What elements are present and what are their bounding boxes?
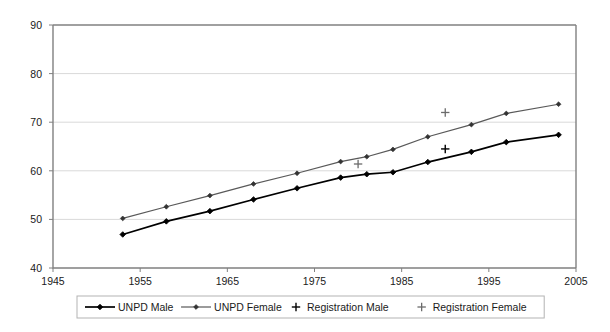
data-point <box>208 193 213 198</box>
series-unpd-female <box>120 102 561 221</box>
chart-canvas: 405060708090 194519551965197519851995200… <box>0 0 610 332</box>
y-tick-label: 60 <box>30 165 42 177</box>
series-registration-male <box>441 145 449 153</box>
data-point <box>251 197 257 203</box>
data-point <box>251 182 256 187</box>
x-tick-label: 1975 <box>303 275 327 287</box>
data-point <box>425 134 430 139</box>
data-point <box>120 232 126 238</box>
x-axis-tick-labels: 1945195519651975198519952005 <box>41 275 588 287</box>
data-point <box>294 185 300 191</box>
data-point <box>295 171 300 176</box>
data-point <box>207 208 213 214</box>
data-point <box>338 175 344 181</box>
x-tick-label: 1955 <box>128 275 152 287</box>
x-tick-label: 1965 <box>216 275 240 287</box>
legend-label: UNPD Male <box>118 301 174 313</box>
y-tick-label: 70 <box>30 116 42 128</box>
data-point <box>364 171 370 177</box>
y-tick-label: 90 <box>30 19 42 31</box>
grid-lines <box>53 74 576 220</box>
data-point <box>391 147 396 152</box>
chart-legend: UNPD MaleUNPD FemaleRegistration MaleReg… <box>77 296 544 318</box>
line-chart: 405060708090 194519551965197519851995200… <box>0 0 610 332</box>
data-point <box>469 149 475 155</box>
y-tick-label: 80 <box>30 68 42 80</box>
data-point <box>556 102 561 107</box>
legend-item-registration-female[interactable]: Registration Female <box>417 301 526 313</box>
x-tick-label: 1995 <box>477 275 501 287</box>
data-point <box>164 204 169 209</box>
data-point-plus <box>441 108 449 116</box>
data-point <box>364 154 369 159</box>
data-point <box>338 159 343 164</box>
y-axis-tick-labels: 405060708090 <box>30 19 42 274</box>
data-point <box>120 216 125 221</box>
series-registration-female <box>354 108 450 168</box>
y-tick-label: 40 <box>30 262 42 274</box>
legend-label: Registration Female <box>433 301 527 313</box>
data-point <box>556 132 562 138</box>
data-point <box>425 159 431 165</box>
data-point <box>503 139 509 145</box>
data-point-plus <box>354 160 362 168</box>
data-point <box>504 111 509 116</box>
data-point <box>469 122 474 127</box>
data-point-plus <box>441 145 449 153</box>
y-tick-label: 50 <box>30 213 42 225</box>
x-tick-label: 1985 <box>390 275 414 287</box>
legend-label: UNPD Female <box>214 301 282 313</box>
legend-label: Registration Male <box>307 301 389 313</box>
data-point <box>390 169 396 175</box>
x-tick-label: 2005 <box>564 275 588 287</box>
x-tick-label: 1945 <box>41 275 65 287</box>
legend-item-registration-male[interactable]: Registration Male <box>292 301 389 313</box>
series-unpd-male <box>120 132 561 237</box>
